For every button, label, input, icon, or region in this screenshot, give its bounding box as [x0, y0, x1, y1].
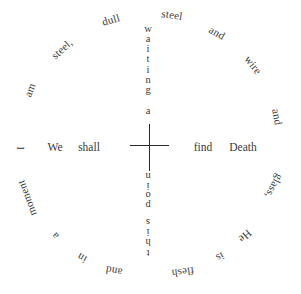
ring-word: I: [15, 146, 26, 150]
ring-word: a: [49, 230, 61, 241]
ring-word: is: [214, 250, 226, 263]
cross-vertical-line: [149, 124, 150, 171]
vertical-char-flipped: t: [142, 248, 154, 258]
center-word-we: We: [47, 141, 62, 153]
ring-word: dull: [101, 12, 121, 28]
ring-word: and: [207, 24, 227, 42]
center-word-find: find: [194, 141, 213, 153]
ring-word: in: [75, 251, 88, 265]
ring-word: steel: [161, 8, 183, 22]
vertical-char-flipped: s: [142, 217, 154, 227]
ring-word: and: [105, 264, 123, 278]
vertical-char-flipped: p: [142, 200, 154, 210]
vertical-char-flipped: h: [142, 237, 154, 247]
vertical-char: g: [142, 85, 154, 95]
center-word-death: Death: [229, 141, 256, 153]
ring-word: am: [22, 82, 37, 99]
ring-word: wire: [242, 54, 263, 77]
vertical-char-flipped: n: [142, 171, 154, 181]
vertical-char: a: [142, 106, 154, 116]
ring-word: glass,: [263, 172, 285, 200]
ring-word: flesh: [171, 265, 195, 279]
concrete-poem-circle: I am steel, dull steel and wire and glas…: [0, 0, 301, 294]
vertical-char-flipped: o: [142, 190, 154, 200]
ring-word: moment: [15, 179, 38, 218]
ring-word: He: [236, 227, 253, 244]
ring-word: steel,: [49, 37, 74, 61]
vertical-char-flipped: i: [142, 227, 154, 237]
ring-word: and: [270, 108, 284, 126]
center-word-shall: shall: [78, 141, 100, 153]
vertical-char: t: [142, 54, 154, 64]
